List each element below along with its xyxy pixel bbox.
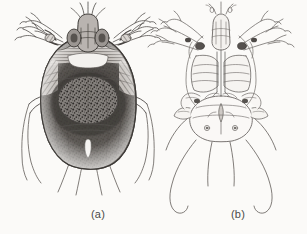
panel-a-legs-left — [15, 13, 65, 46]
panel-a-legs-right — [111, 13, 161, 46]
panel-b-gnathosoma — [206, 2, 236, 50]
panel-b-caption: (b) — [222, 208, 254, 220]
panel-a-dorsal-figure — [15, 2, 161, 195]
panel-b-ventral-figure — [148, 2, 294, 213]
panel-b-legs-left — [148, 11, 218, 92]
illustration-plate: (a) (b) — [0, 0, 307, 234]
panel-b-legs-right — [224, 11, 294, 92]
panel-a-caption: (a) — [82, 208, 114, 220]
mite-plate-drawing — [0, 0, 307, 234]
